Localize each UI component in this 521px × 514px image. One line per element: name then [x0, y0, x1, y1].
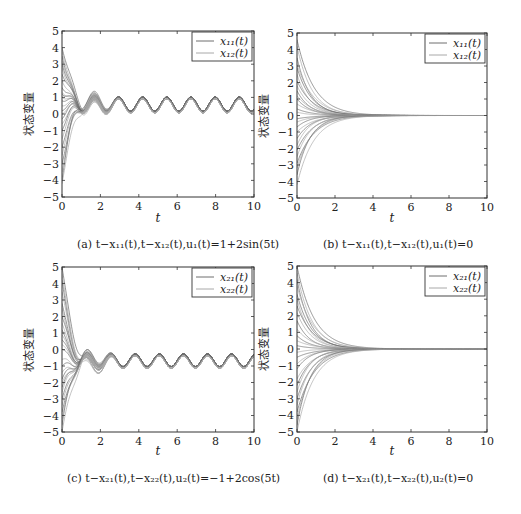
- y-tick-label: −1: [43, 360, 59, 373]
- trajectory-line: [297, 116, 487, 169]
- y-tick-label: 2: [287, 77, 294, 90]
- caption-panel-a: (a) t−x₁₁(t),t−x₁₂(t),u₁(t)=1+2sin(5t): [77, 238, 279, 251]
- trajectory-line: [62, 330, 254, 368]
- trajectory-line: [297, 96, 487, 116]
- y-tick-label: −4: [43, 410, 59, 423]
- trajectory-line: [297, 349, 487, 369]
- x-tick-label: 0: [59, 200, 66, 213]
- x-tick-label: 2: [97, 200, 104, 213]
- y-tick-label: −3: [278, 393, 294, 406]
- trajectory-line: [297, 116, 487, 185]
- x-tick-label: 10: [480, 435, 494, 448]
- trajectory-line: [297, 64, 487, 115]
- y-tick-label: 4: [52, 278, 59, 291]
- y-tick-label: 3: [287, 293, 294, 306]
- y-tick-label: −2: [278, 143, 294, 156]
- y-tick-label: −1: [278, 360, 294, 373]
- trajectory-line: [297, 349, 487, 419]
- y-tick-label: 2: [52, 311, 59, 324]
- y-tick-label: 5: [287, 260, 294, 273]
- y-tick-label: −3: [278, 159, 294, 172]
- legend: x₁₁(t)x₁₂(t): [192, 32, 252, 61]
- y-tick-label: −3: [43, 158, 59, 171]
- plots-canvas: 0246810−5−4−3−2−1012345t状态变量x₁₁(t)x₁₂(t)…: [0, 0, 521, 514]
- x-tick-label: 6: [174, 200, 181, 213]
- trajectory-line: [297, 116, 487, 157]
- y-tick-label: 0: [287, 110, 294, 123]
- figure: 0246810−5−4−3−2−1012345t状态变量x₁₁(t)x₁₂(t)…: [0, 0, 521, 514]
- x-tick-label: 8: [446, 201, 453, 214]
- legend-label: x₂₂(t): [453, 282, 481, 295]
- y-tick-label: 0: [52, 108, 59, 121]
- x-tick-label: 10: [247, 435, 261, 448]
- y-axis-label: 状态变量: [22, 92, 36, 136]
- legend: x₁₁(t)x₁₂(t): [425, 34, 485, 63]
- y-tick-label: 0: [287, 343, 294, 356]
- y-tick-label: 4: [52, 42, 59, 55]
- trajectory-line: [62, 74, 254, 112]
- y-tick-label: 3: [52, 58, 59, 71]
- trajectory-line: [297, 349, 487, 425]
- x-axis-label: t: [390, 444, 395, 458]
- y-tick-label: 0: [52, 344, 59, 357]
- legend-label: x₁₂(t): [220, 47, 248, 60]
- trajectory-line: [297, 81, 487, 116]
- y-axis-label: 状态变量: [257, 94, 271, 138]
- x-tick-label: 6: [408, 201, 415, 214]
- trajectory-line: [297, 116, 487, 146]
- x-tick-label: 6: [408, 435, 415, 448]
- trajectory-line: [297, 321, 487, 349]
- y-tick-label: −1: [43, 125, 59, 138]
- x-tick-label: 10: [480, 201, 494, 214]
- y-tick-label: −5: [43, 191, 59, 204]
- y-tick-label: 1: [287, 93, 294, 106]
- x-tick-label: 10: [247, 200, 261, 213]
- x-tick-label: 0: [294, 435, 301, 448]
- panel-b-chart: 0246810−5−4−3−2−1012345t状态变量x₁₁(t)x₁₂(t): [257, 27, 494, 225]
- legend: x₂₁(t)x₂₂(t): [425, 267, 485, 296]
- trajectory-line: [297, 329, 487, 349]
- trajectory-line: [62, 61, 254, 115]
- y-tick-label: −4: [43, 174, 59, 187]
- x-tick-label: 2: [97, 435, 104, 448]
- trajectory-line: [297, 68, 487, 116]
- trajectory-line: [297, 306, 487, 349]
- caption-panel-c: (c) t−x₂₁(t),t−x₂₂(t),u₂(t)=−1+2cos(5t): [67, 472, 280, 485]
- x-tick-label: 6: [174, 435, 181, 448]
- x-tick-label: 8: [446, 435, 453, 448]
- y-tick-label: −2: [43, 377, 59, 390]
- y-tick-label: −4: [278, 176, 294, 189]
- panel-d-chart: 0246810−5−4−3−2−1012345t状态变量x₂₁(t)x₂₂(t): [257, 260, 494, 458]
- y-tick-label: 2: [287, 310, 294, 323]
- y-tick-label: −1: [278, 126, 294, 139]
- y-tick-label: 5: [52, 261, 59, 274]
- y-tick-label: 3: [52, 294, 59, 307]
- x-tick-label: 8: [212, 435, 219, 448]
- panel-a-chart: 0246810−5−4−3−2−1012345t状态变量x₁₁(t)x₁₂(t): [22, 25, 261, 225]
- x-tick-label: 0: [59, 435, 66, 448]
- y-axis-label: 状态变量: [22, 328, 36, 372]
- x-axis-label: t: [390, 211, 395, 225]
- trajectory-line: [62, 68, 254, 114]
- y-tick-label: 4: [287, 44, 294, 57]
- x-axis-label: t: [156, 444, 161, 458]
- x-tick-label: 2: [332, 435, 339, 448]
- y-tick-label: 1: [52, 327, 59, 340]
- y-tick-label: −5: [43, 426, 59, 439]
- trajectory-line: [297, 349, 487, 392]
- y-tick-label: 4: [287, 277, 294, 290]
- panel-c-chart: 0246810−5−4−3−2−1012345t状态变量x₂₁(t)x₂₂(t): [22, 261, 261, 458]
- caption-panel-b: (b) t−x₁₁(t),t−x₁₂(t),u₁(t)=0: [323, 238, 473, 251]
- x-tick-label: 4: [370, 435, 377, 448]
- x-tick-label: 8: [212, 200, 219, 213]
- y-tick-label: 1: [287, 326, 294, 339]
- trajectory-line: [297, 294, 487, 349]
- y-tick-label: −5: [278, 426, 294, 439]
- x-axis-label: t: [156, 211, 161, 225]
- legend: x₂₁(t)x₂₂(t): [192, 268, 252, 297]
- legend-label: x₁₂(t): [453, 49, 481, 62]
- y-tick-label: 2: [52, 75, 59, 88]
- y-tick-label: −3: [43, 393, 59, 406]
- trajectory-lines: [62, 48, 254, 184]
- y-axis-label: 状态变量: [257, 327, 271, 371]
